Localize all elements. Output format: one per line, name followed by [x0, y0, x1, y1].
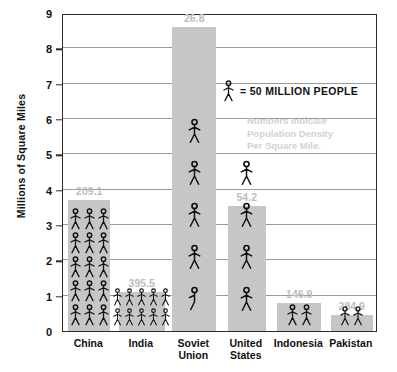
stick-figure-icon: [286, 304, 299, 326]
stick-figure-icon: [69, 208, 82, 230]
pictograph-cell: [239, 286, 255, 312]
y-axis-tick-label: 5: [28, 149, 52, 161]
pictograph-cell: [285, 304, 299, 326]
pictograph-group: [339, 306, 365, 328]
stick-figure-icon: [148, 288, 159, 306]
stick-figure-icon: [124, 288, 135, 306]
pictograph-group: [68, 208, 110, 328]
stick-figure-icon: [352, 306, 364, 326]
stick-figure-icon: [136, 308, 147, 326]
stick-figure-icon: [97, 232, 110, 254]
stick-figure-icon: [112, 308, 123, 326]
pictograph-group: [186, 118, 202, 328]
pictograph-cell: [186, 160, 202, 186]
x-label-united-states: UnitedStates: [220, 337, 273, 361]
pictograph-cell: [96, 232, 110, 254]
y-axis-tick-label: 4: [28, 185, 52, 197]
stick-figure-icon: [187, 160, 202, 186]
pictograph-cell: [186, 286, 202, 312]
gridline: [63, 47, 376, 48]
pictograph-group: [285, 304, 313, 328]
stick-figure-icon: [124, 308, 135, 326]
bar-pakistan: 284.9: [331, 315, 373, 331]
stick-figure-icon: [222, 80, 235, 102]
pictograph-cell: [239, 202, 255, 228]
pictograph-cell: [82, 232, 96, 254]
y-axis-tick-label: 9: [28, 8, 52, 20]
stick-figure-icon: [112, 288, 123, 306]
pictograph-cell: [82, 280, 96, 302]
pictograph-cell: [96, 208, 110, 230]
stick-figure-icon: [83, 280, 96, 302]
pictograph-cell: [186, 118, 202, 144]
bar-united-states: 54.2: [228, 206, 266, 331]
y-axis-tick-label: 0: [28, 326, 52, 338]
pictograph-group: [112, 288, 172, 328]
pictograph-cell: [160, 288, 172, 306]
legend: = 50 MILLION PEOPLE: [222, 80, 358, 102]
bar-value-label: 146.9: [277, 288, 321, 300]
pictograph-cell: [186, 202, 202, 228]
note-line-2: Population Density: [247, 128, 333, 141]
stick-figure-icon: [160, 288, 171, 306]
pictograph-cell: [68, 256, 82, 278]
y-axis-tick-label: 3: [28, 220, 52, 232]
note-line-3: Per Square Mile.: [247, 140, 333, 153]
plot-area: 209.1395.526.854.2146.9284.9: [62, 14, 377, 332]
x-label-india: India: [115, 337, 168, 349]
pictograph-cell: [68, 232, 82, 254]
gridline: [63, 153, 376, 154]
pictograph-cell: [239, 244, 255, 270]
chart-note: Numbers Indicate Population Density Per …: [247, 115, 333, 153]
stick-figure-icon: [239, 244, 254, 270]
pictograph-cell: [82, 208, 96, 230]
pictograph-bar-chart: Millions of Square Miles 0123456789 209.…: [0, 0, 397, 372]
pictograph-cell: [136, 288, 148, 306]
stick-figure-icon: [160, 308, 171, 326]
stick-figure-icon: [69, 256, 82, 278]
stick-figure-icon: [187, 244, 202, 270]
bar-indonesia: 146.9: [277, 303, 321, 331]
pictograph-cell: [186, 244, 202, 270]
stick-figure-icon: [239, 286, 254, 312]
y-axis-tick-label: 1: [28, 291, 52, 303]
stick-figure-icon: [97, 256, 110, 278]
stick-figure-icon: [83, 256, 96, 278]
pictograph-cell: [339, 306, 352, 326]
bar-value-label: 26.8: [172, 12, 216, 24]
bar-soviet-union: 26.8: [172, 27, 216, 331]
y-axis-tick-label: 2: [28, 255, 52, 267]
y-axis-tick-label: 7: [28, 79, 52, 91]
stick-figure-icon: [69, 232, 82, 254]
pictograph-cell: [68, 208, 82, 230]
stick-figure-icon: [300, 304, 313, 326]
pictograph-cell: [96, 280, 110, 302]
pictograph-cell: [68, 280, 82, 302]
stick-figure-icon: [136, 288, 147, 306]
pictograph-cell: [136, 308, 148, 326]
y-axis-title: Millions of Square Miles: [15, 86, 27, 226]
stick-figure-icon: [97, 208, 110, 230]
legend-label: = 50 MILLION PEOPLE: [240, 85, 358, 97]
stick-figure-icon: [187, 118, 202, 144]
pictograph-cell: [82, 304, 96, 326]
pictograph-cell: [124, 288, 136, 306]
pictograph-cell: [299, 304, 313, 326]
pictograph-cell: [239, 160, 255, 186]
pictograph-cell: [124, 308, 136, 326]
stick-figure-icon: [187, 202, 202, 228]
pictograph-cell: [68, 304, 82, 326]
stick-figure-half-icon: [187, 286, 202, 312]
pictograph-cell: [112, 308, 124, 326]
pictograph-cell: [148, 288, 160, 306]
stick-figure-icon: [97, 280, 110, 302]
bar-china: 209.1: [68, 200, 110, 331]
pictograph-cell: [352, 306, 365, 326]
legend-stick-figure-icon: [222, 80, 235, 102]
x-label-soviet-union: SovietUnion: [167, 337, 220, 361]
pictograph-cell: [148, 308, 160, 326]
pictograph-cell: [82, 256, 96, 278]
pictograph-cell: [112, 288, 124, 306]
note-line-1: Numbers Indicate: [247, 115, 333, 128]
x-label-china: China: [62, 337, 115, 349]
